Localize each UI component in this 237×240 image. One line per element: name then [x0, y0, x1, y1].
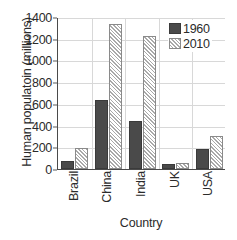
y-axis-tick-label: 0 [16, 163, 52, 177]
y-axis-tick-label: 600 [16, 98, 52, 112]
x-axis-tick-labels: BrazilChinaIndiaUKUSA [57, 171, 225, 213]
legend-swatch [169, 23, 181, 34]
x-axis-tick: UK [167, 171, 183, 213]
y-axis-tick-label: 200 [16, 141, 52, 155]
x-axis-title: Country [57, 216, 225, 230]
y-axis-tick-mark [53, 39, 57, 40]
x-axis-tick: USA [200, 171, 216, 213]
x-axis-tick-label: Brazil [67, 171, 81, 201]
y-axis-tick-label: 800 [16, 76, 52, 90]
bar-chart: Human populatoin (millions) 020040060080… [0, 0, 237, 240]
bar [210, 136, 223, 169]
x-axis-tick: China [99, 171, 115, 213]
y-axis-tick-mark [53, 170, 57, 171]
y-axis-tick-labels: 0200400600800100012001400 [16, 18, 52, 170]
x-axis-tick-label: India [134, 171, 148, 197]
y-axis-tick-mark [53, 104, 57, 105]
y-axis-tick-label: 1400 [16, 11, 52, 25]
legend-label: 1960 [183, 22, 210, 36]
y-axis-tick-mark [53, 61, 57, 62]
x-axis-tick-label: China [100, 171, 114, 203]
y-axis-tick-label: 400 [16, 120, 52, 134]
y-axis-tick-mark [53, 83, 57, 84]
y-axis-tick-label: 1200 [16, 33, 52, 47]
x-axis-tick: Brazil [66, 171, 82, 213]
y-axis-tick-mark [53, 148, 57, 149]
y-axis-tick-mark [53, 126, 57, 127]
bar [196, 149, 209, 169]
legend-entry: 1960 [169, 21, 210, 36]
y-axis-tick-label: 1000 [16, 54, 52, 68]
x-axis-tick: India [133, 171, 149, 213]
legend-entry: 2010 [169, 36, 210, 51]
x-axis-tick-label: UK [168, 171, 182, 188]
x-axis-tick-label: USA [201, 171, 215, 196]
legend-label: 2010 [183, 37, 210, 51]
y-axis-tick-mark [53, 18, 57, 19]
chart-legend: 19602010 [168, 20, 212, 52]
legend-swatch [169, 38, 181, 49]
